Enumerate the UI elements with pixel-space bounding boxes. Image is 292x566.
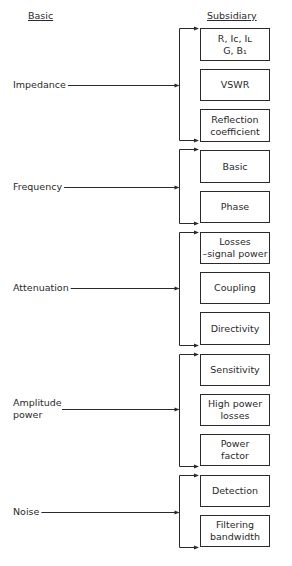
subsidiary-box: Filtering bandwidth — [200, 515, 270, 547]
subsidiary-box-label: Detection — [212, 485, 258, 497]
arrowhead-icon — [175, 511, 180, 515]
subsidiary-box: R, Iᴄ, Iʟ G, B₁ — [200, 28, 270, 61]
arrowhead-icon — [194, 231, 199, 235]
arrowhead-icon — [194, 139, 199, 143]
subsidiary-box: High power losses — [200, 394, 270, 426]
arrowhead-icon — [175, 287, 180, 291]
arrowhead-icon — [194, 148, 199, 152]
subsidiary-box: Directivity — [200, 312, 270, 345]
arrowhead-icon — [175, 408, 180, 412]
subsidiary-box-label: Basic — [222, 161, 247, 173]
subsidiary-box: Reflection coefficient — [200, 109, 270, 142]
subsidiary-box-label: Directivity — [211, 323, 260, 335]
subsidiary-box: VSWR — [200, 69, 270, 101]
arrowhead-icon — [194, 222, 199, 226]
subsidiary-box-label: VSWR — [221, 79, 250, 91]
subsidiary-box: Losses –signal power — [200, 232, 270, 264]
subsidiary-box: Coupling — [200, 272, 270, 304]
basic-label-noise: Noise — [13, 506, 39, 518]
subsidiary-box-label: R, Iᴄ, Iʟ G, B₁ — [218, 33, 252, 57]
arrowhead-icon — [175, 186, 180, 190]
arrowhead-icon — [194, 546, 199, 550]
subsidiary-box: Basic — [200, 150, 270, 183]
subsidiary-box: Phase — [200, 191, 270, 223]
subsidiary-box-label: High power losses — [208, 398, 262, 422]
basic-label-attenuation: Attenuation — [13, 282, 69, 294]
subsidiary-box-label: Power factor — [221, 438, 250, 462]
arrowhead-icon — [194, 353, 199, 357]
arrowhead-icon — [175, 84, 180, 88]
subsidiary-box: Detection — [200, 475, 270, 507]
subsidiary-box-label: Sensitivity — [210, 364, 259, 376]
arrowhead-icon — [194, 474, 199, 478]
subsidiary-box-label: Reflection coefficient — [210, 114, 260, 138]
arrowhead-icon — [194, 27, 199, 31]
arrowhead-icon — [194, 344, 199, 348]
basic-label-frequency: Frequency — [13, 181, 62, 193]
basic-label-impedance: Impedance — [13, 79, 66, 91]
subsidiary-box: Sensitivity — [200, 354, 270, 386]
subsidiary-box: Power factor — [200, 434, 270, 466]
basic-label-amplitude: Amplitude power — [13, 397, 62, 421]
subsidiary-box-label: Coupling — [214, 282, 256, 294]
subsidiary-box-label: Phase — [221, 201, 249, 213]
subsidiary-box-label: Filtering bandwidth — [210, 519, 260, 543]
subsidiary-box-label: Losses –signal power — [202, 236, 267, 260]
arrowhead-icon — [194, 465, 199, 469]
